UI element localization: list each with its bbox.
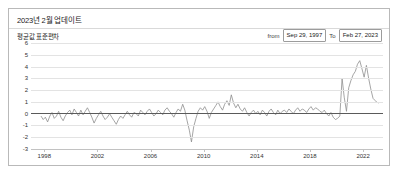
x-axis-tick-label: 2006 [144,153,157,159]
x-axis-tick-label: 2018 [303,153,316,159]
x-axis-tick-label: 2002 [91,153,104,159]
grid-line [31,78,383,79]
to-label: To [329,33,335,39]
y-axis-tick-label: 0 [14,114,28,115]
y-axis-tick-label: 1 [14,102,28,103]
x-axis-tick-label: 2022 [356,153,369,159]
grid-line [31,125,383,126]
y-axis-tick-label: -3 [14,149,28,150]
from-label: from [268,33,280,39]
date-range-control: from Sep 29, 1997 To Feb 27, 2023 [268,29,382,42]
grid-line [31,43,383,44]
x-axis-tick [204,149,205,152]
from-date-input[interactable]: Sep 29, 1997 [283,29,327,42]
y-axis-tick-label: -2 [14,137,28,138]
y-axis-tick-label: 5 [14,55,28,56]
x-axis-tick-label: 2010 [197,153,210,159]
x-axis-tick [151,149,152,152]
x-axis-tick-label: 2014 [250,153,263,159]
y-axis-tick-label: -1 [14,125,28,126]
chart-panel: 2023년 2월 업데이트 평균값 표준편차 from Sep 29, 1997… [8,8,390,166]
x-axis-tick [44,149,45,152]
y-axis-tick-label: 6 [14,43,28,44]
y-axis-tick-label: 4 [14,67,28,68]
x-axis-tick [310,149,311,152]
chart-plot-area: 6543210-1-2-3 [31,43,383,149]
timeseries-line [31,43,383,149]
y-axis-tick-label: 3 [14,78,28,79]
x-axis-tick [363,149,364,152]
grid-line [31,55,383,56]
x-axis-tick [257,149,258,152]
grid-line [31,137,383,138]
grid-line [31,67,383,68]
to-date-input[interactable]: Feb 27, 2023 [339,29,382,42]
x-axis-tick-label: 1998 [38,153,51,159]
page-title: 2023년 2월 업데이트 [17,14,81,25]
zero-baseline [31,113,383,115]
grid-line [31,90,383,91]
chart-subtitle: 평균값 표준편차 [17,31,59,41]
y-axis-tick-label: 2 [14,90,28,91]
grid-line [31,102,383,103]
x-axis-tick [97,149,98,152]
x-axis: 1998200220062010201420182022 [31,149,383,150]
